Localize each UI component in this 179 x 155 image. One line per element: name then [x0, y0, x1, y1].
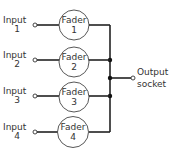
fader-number: 4: [70, 132, 76, 142]
input-number: 3: [14, 95, 20, 105]
input-number: 1: [14, 24, 20, 34]
channel-3: Input 3 Fader 3: [3, 82, 110, 112]
fader-number: 1: [71, 25, 77, 35]
output-socket-icon: [131, 76, 135, 80]
fader-label: Fader: [62, 87, 87, 97]
junction-dot: [108, 76, 112, 80]
channel-1: Input 1 Fader 1: [3, 10, 110, 40]
input-socket-icon: [33, 130, 37, 134]
mixer-diagram: Output socket Input 1 Fader 1 Input 2 Fa…: [0, 0, 179, 155]
input-number: 2: [14, 59, 20, 69]
output-label-line1: Output: [137, 67, 169, 77]
input-socket-icon: [33, 23, 37, 27]
input-socket-icon: [33, 94, 37, 98]
channel-2: Input 2 Fader 2: [3, 47, 110, 77]
channel-4: Input 4 Fader 4: [3, 117, 110, 148]
input-socket-icon: [33, 58, 37, 62]
fader-label: Fader: [61, 122, 86, 132]
fader-number: 2: [71, 62, 77, 72]
fader-label: Fader: [62, 52, 87, 62]
output-label-line2: socket: [137, 79, 167, 89]
fader-label: Fader: [62, 15, 87, 25]
fader-number: 3: [71, 97, 77, 107]
input-number: 4: [14, 131, 20, 141]
